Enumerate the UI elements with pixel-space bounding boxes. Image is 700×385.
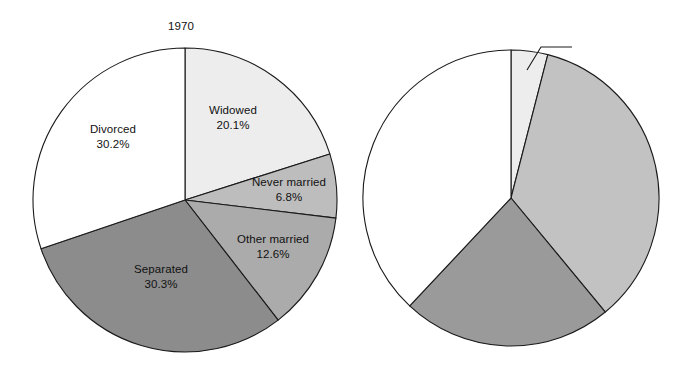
slice-label-name: Divorced bbox=[70, 122, 156, 137]
slice-label-value: 12.6% bbox=[227, 247, 319, 262]
slice-label-1970-widowed: Widowed 20.1% bbox=[190, 103, 276, 132]
slice-label-1970-divorced: Divorced 30.2% bbox=[70, 122, 156, 151]
slice-label-name: Widowed bbox=[190, 103, 276, 118]
slice-label-value: 30.3% bbox=[118, 277, 204, 292]
slice-label-value: 6.8% bbox=[243, 190, 335, 205]
slice-label-name: Never married bbox=[243, 175, 335, 190]
slice-label-1970-never-married: Never married 6.8% bbox=[243, 175, 335, 204]
slice-label-value: 30.2% bbox=[70, 137, 156, 152]
slice-label-name: Separated bbox=[118, 262, 204, 277]
pie-title-1970: 1970 bbox=[168, 20, 194, 32]
pie-chart-figure: 1970 Widowed 20.1% Never married 6.8% Ot… bbox=[0, 0, 700, 385]
slice-label-name: Other married bbox=[227, 232, 319, 247]
slice-label-1970-other-married: Other married 12.6% bbox=[227, 232, 319, 261]
slice-label-1970-separated: Separated 30.3% bbox=[118, 262, 204, 291]
slice-label-value: 20.1% bbox=[190, 118, 276, 133]
pie-chart-1995: 1995 Widowed 4% Never married 35% Separa… bbox=[350, 0, 700, 385]
pie-chart-1970: 1970 Widowed 20.1% Never married 6.8% Ot… bbox=[0, 0, 350, 385]
